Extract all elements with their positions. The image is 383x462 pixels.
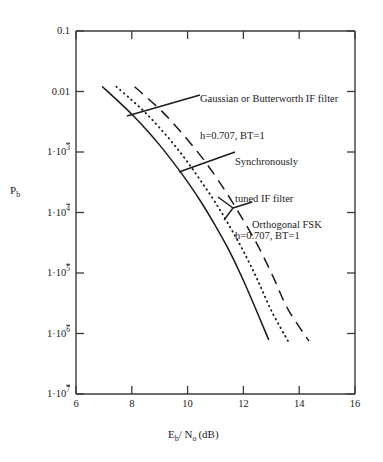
- annotation-orthogonal-line1: Orthogonal FSK: [252, 219, 322, 231]
- x-axis-title: Eb/ No(dB): [168, 428, 219, 440]
- y-tick-exp-6: 7: [66, 385, 70, 394]
- x-tick-label-2: 10: [182, 399, 193, 410]
- y-tick-label-5: 1·106: [10, 328, 70, 339]
- x-tick-label-0: 6: [73, 399, 78, 410]
- y-tick-label-3: 1·104: [10, 207, 70, 218]
- x-tick-label-4: 14: [294, 399, 305, 410]
- annotation-gaussian-line1: Gaussian or Butterworth IF filter: [200, 93, 338, 105]
- y-tick-label-2: 1·103: [10, 147, 70, 158]
- annotation-sync-line1: Synchronously: [235, 156, 300, 168]
- annotation-orthogonal-fsk: Orthogonal FSK: [252, 194, 322, 256]
- y-tick-exp-2: 3: [66, 143, 70, 152]
- y-tick-label-0: 0.1: [18, 26, 70, 37]
- x-tick-label-3: 12: [238, 399, 249, 410]
- y-tick-exp-3: 4: [66, 204, 70, 213]
- y-tick-label-6: 1·107: [10, 389, 70, 400]
- x-tick-label-1: 8: [129, 399, 134, 410]
- y-axis-title: Pb: [10, 184, 20, 196]
- y-axis-title-sub: b: [16, 190, 20, 199]
- figure-canvas: 0.1 0.01 1·103 1·104 1·105 1·106 1·107 6…: [0, 0, 383, 462]
- y-tick-exp-4: 5: [66, 264, 70, 273]
- y-tick-exp-5: 6: [66, 325, 70, 334]
- x-tick-label-5: 16: [350, 399, 361, 410]
- y-tick-label-1: 0.01: [18, 86, 70, 97]
- y-tick-label-4: 1·105: [10, 268, 70, 279]
